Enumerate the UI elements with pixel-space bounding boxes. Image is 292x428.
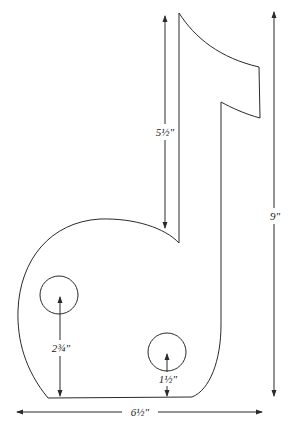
total-width-label: 6½" [131,406,150,418]
left-hole [40,276,78,314]
stem-height-label: 5½" [156,126,175,138]
note-outline [18,13,260,398]
left-hole-height-label: 2¾" [52,342,71,354]
right-hole-height-label: 1½" [159,373,178,385]
total-height-label: 9" [270,210,281,222]
eighth-note-diagram: 5½" 9" 6½" 2¾" 1½" [0,0,292,428]
